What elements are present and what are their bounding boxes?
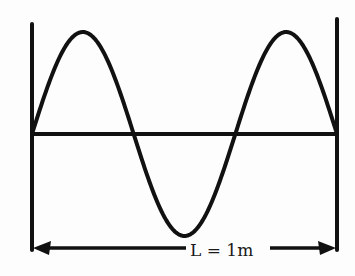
length-label: L = 1m [190,240,253,260]
diagram-canvas: L = 1m [0,0,355,276]
arrowhead-left-icon [33,241,51,255]
arrowhead-right-icon [318,241,336,255]
standing-wave-diagram: L = 1m [0,0,355,276]
